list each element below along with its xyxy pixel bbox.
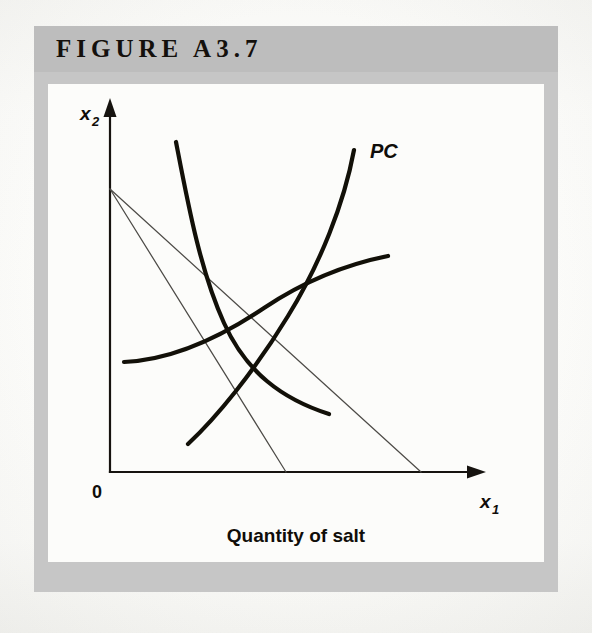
x-axis-label-subscript: 1 <box>492 502 499 517</box>
budget-lines-group <box>110 189 421 472</box>
indifference-curve-2 <box>124 256 388 362</box>
figure-title-band: FIGURE A3.7 <box>34 26 558 72</box>
x-axis-label: x <box>479 491 492 512</box>
plot-panel: x 2 x 1 PC 0 Quantity of salt <box>48 84 544 562</box>
scanned-page: FIGURE A3.7 <box>0 0 592 633</box>
figure-chart: x 2 x 1 PC 0 Quantity of salt <box>48 84 544 562</box>
figure-title: FIGURE A3.7 <box>56 35 262 63</box>
indifference-curve-1 <box>176 142 329 414</box>
y-axis-arrow-icon <box>104 98 117 117</box>
origin-label: 0 <box>92 482 102 502</box>
x-axis-caption: Quantity of salt <box>227 525 366 546</box>
y-axis-label-subscript: 2 <box>91 114 100 129</box>
x-axis-arrow-icon <box>467 466 486 479</box>
pc-curve-label: PC <box>370 140 398 162</box>
budget-line-flat <box>110 189 421 472</box>
budget-line-steep <box>110 189 286 472</box>
labels-group: x 2 x 1 PC 0 Quantity of salt <box>79 103 499 546</box>
y-axis-label: x <box>79 103 92 124</box>
